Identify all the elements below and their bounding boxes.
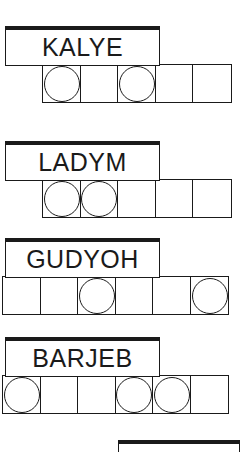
letter-cell[interactable] bbox=[192, 179, 231, 218]
group-partial-cutoff bbox=[118, 440, 240, 452]
letter-cell[interactable] bbox=[117, 64, 156, 103]
word-label-box: BARJEB bbox=[5, 337, 160, 377]
letter-cell[interactable] bbox=[152, 375, 191, 414]
circle-marker-icon bbox=[79, 278, 115, 314]
letter-cell[interactable] bbox=[77, 276, 116, 315]
letter-cell[interactable] bbox=[155, 64, 194, 103]
letter-cell[interactable] bbox=[115, 276, 154, 315]
letter-cell[interactable] bbox=[117, 179, 156, 218]
letter-cell[interactable] bbox=[115, 375, 154, 414]
letter-cell[interactable] bbox=[190, 276, 229, 315]
circle-marker-icon bbox=[119, 66, 155, 102]
circle-marker-icon bbox=[154, 377, 190, 413]
word-label-text: KALYE bbox=[42, 35, 123, 60]
letter-cell[interactable] bbox=[40, 375, 79, 414]
letter-cell[interactable] bbox=[42, 179, 81, 218]
letter-cell[interactable] bbox=[155, 179, 194, 218]
cell-strip bbox=[42, 179, 232, 218]
letter-cell[interactable] bbox=[192, 64, 231, 103]
circle-marker-icon bbox=[44, 66, 80, 102]
circle-marker-icon bbox=[4, 377, 40, 413]
word-label-text: LADYM bbox=[38, 150, 127, 175]
word-label-text: BARJEB bbox=[32, 346, 132, 371]
letter-cell[interactable] bbox=[77, 375, 116, 414]
word-label-text: GUDYOH bbox=[26, 247, 139, 272]
letter-cell[interactable] bbox=[42, 64, 81, 103]
letter-cell[interactable] bbox=[152, 276, 191, 315]
word-label-box: GUDYOH bbox=[5, 238, 160, 278]
cell-strip bbox=[2, 276, 229, 315]
circle-marker-icon bbox=[44, 181, 80, 217]
cell-strip bbox=[42, 64, 232, 103]
circle-marker-icon bbox=[192, 278, 228, 314]
letter-cell[interactable] bbox=[80, 179, 119, 218]
circle-marker-icon bbox=[116, 377, 152, 413]
letter-cell[interactable] bbox=[2, 276, 41, 315]
word-label-box: LADYM bbox=[5, 141, 160, 181]
letter-cell[interactable] bbox=[40, 276, 79, 315]
letter-cell[interactable] bbox=[2, 375, 41, 414]
word-label-box: KALYE bbox=[5, 26, 160, 66]
letter-cell[interactable] bbox=[80, 64, 119, 103]
letter-cell[interactable] bbox=[190, 375, 229, 414]
circle-marker-icon bbox=[81, 181, 117, 217]
cell-strip bbox=[2, 375, 229, 414]
